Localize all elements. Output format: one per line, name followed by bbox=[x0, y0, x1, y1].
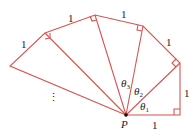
side-label-right: 1 bbox=[184, 88, 190, 99]
side-label-upper-right: 1 bbox=[166, 37, 172, 48]
triangle-spiral bbox=[0, 0, 195, 140]
side-label-top-left: 1 bbox=[68, 13, 74, 24]
point-p bbox=[124, 113, 128, 117]
angle-theta3: θ3 bbox=[121, 78, 130, 91]
side-label-top-right: 1 bbox=[121, 9, 127, 20]
side-label-left: 1 bbox=[21, 39, 27, 50]
point-label: P bbox=[121, 119, 128, 130]
ellipsis: ⋮ bbox=[48, 92, 59, 103]
angle-theta1: θ1 bbox=[140, 101, 149, 114]
angle-theta2: θ2 bbox=[134, 86, 143, 99]
side-label-bottom: 1 bbox=[152, 120, 158, 131]
diagram: P 1 1 1 1 1 1 θ1 θ2 θ3 ⋮ bbox=[0, 0, 195, 140]
